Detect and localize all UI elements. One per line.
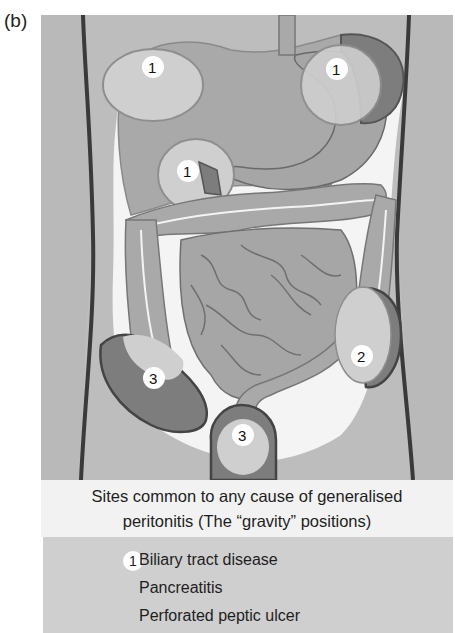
caption-line-1: Sites common to any cause of generalised: [41, 484, 453, 509]
marker-3-rif: 3: [143, 367, 165, 389]
marker-1-ruq: 1: [142, 56, 164, 78]
legend-item-pancreatitis: Pancreatitis: [139, 579, 223, 597]
abdomen-svg: 1 1 1 2 3 3: [41, 15, 453, 480]
marker-3-pelvis: 3: [232, 424, 254, 446]
svg-text:1: 1: [332, 61, 340, 78]
caption-line-2: peritonitis (The “gravity” positions): [41, 509, 453, 534]
svg-text:3: 3: [149, 370, 157, 387]
marker-2-lif: 2: [351, 345, 373, 367]
marker-1-luq: 1: [326, 58, 348, 80]
figure-caption: Sites common to any cause of generalised…: [41, 480, 453, 537]
legend-box: 1 Biliary tract disease Pancreatitis Per…: [43, 537, 453, 633]
svg-text:3: 3: [238, 427, 246, 444]
legend-item-peptic-ulcer: Perforated peptic ulcer: [139, 607, 300, 625]
panel-label: (b): [4, 10, 27, 32]
legend-item-biliary: Biliary tract disease: [139, 551, 278, 569]
svg-text:2: 2: [357, 348, 365, 365]
abdomen-illustration: 1 1 1 2 3 3: [41, 15, 453, 480]
svg-text:1: 1: [183, 163, 191, 180]
svg-text:1: 1: [148, 59, 156, 76]
marker-1-epigastric: 1: [177, 160, 199, 182]
